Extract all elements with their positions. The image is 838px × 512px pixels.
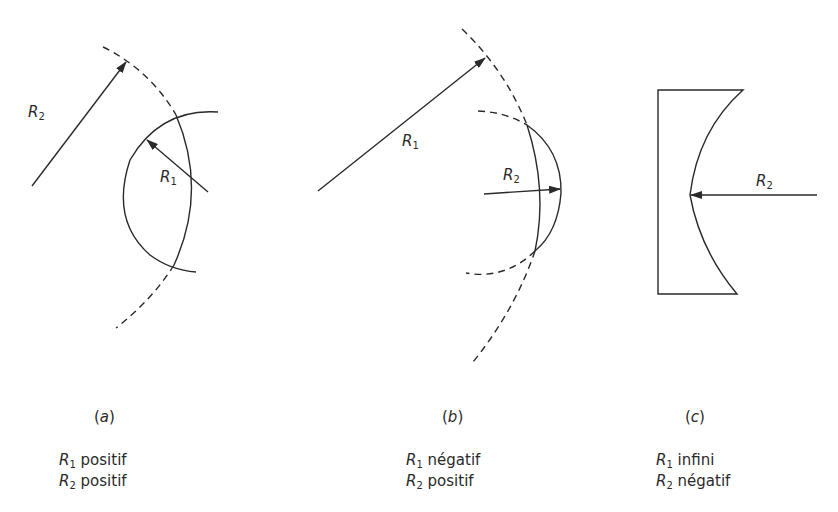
panel-a-r1-label: R1 xyxy=(160,170,177,187)
panel-a-r1-arrow xyxy=(147,140,208,192)
panel-a-outer-arc-dashed-top xyxy=(103,47,176,115)
panel-a-drawing xyxy=(32,47,218,328)
panel-b-outer-arc-solid xyxy=(527,125,540,251)
panel-b-outer-arc-dashed-top xyxy=(462,29,527,125)
panel-a-caption-line-2: R2 positif xyxy=(59,473,127,494)
panel-a-outer-arc-solid xyxy=(174,115,192,265)
panel-b-outer-arc-dashed-bottom xyxy=(473,251,535,362)
panel-b-r2-arrow xyxy=(484,189,560,194)
panel-a-caption: R1 positif R2 positif xyxy=(59,452,127,494)
panel-c-caption: R1 infini R2 négatif xyxy=(656,452,730,494)
panel-a-r2-label: R2 xyxy=(28,105,45,122)
lens-radius-sign-convention-figure: R2 R1 R1 R2 R2 (a) (b) (c) R1 positif R2… xyxy=(0,0,838,512)
panel-b-r1-label: R1 xyxy=(402,134,419,151)
panel-c-caption-line-2: R2 négatif xyxy=(656,473,730,494)
panel-c-drawing xyxy=(658,90,817,294)
panel-b-drawing xyxy=(318,29,561,362)
panel-b-inner-arc-dashed-bottom xyxy=(466,251,535,274)
panel-a-outer-arc-dashed-bottom xyxy=(116,265,174,328)
panel-b-letter: (b) xyxy=(442,410,463,425)
panel-a-inner-arc xyxy=(123,112,218,272)
panel-a-caption-line-1: R1 positif xyxy=(59,452,127,473)
panel-b-r2-label: R2 xyxy=(503,168,520,185)
panel-b-caption: R1 négatif R2 positif xyxy=(406,452,480,494)
panel-c-letter: (c) xyxy=(685,410,705,425)
panel-a-letter: (a) xyxy=(94,410,115,425)
panel-a-r2-arrow xyxy=(32,62,126,186)
panel-b-r1-arrow xyxy=(318,58,485,191)
panel-c-caption-line-1: R1 infini xyxy=(656,452,730,473)
panel-c-lens-outline xyxy=(658,90,743,294)
panel-b-caption-line-1: R1 négatif xyxy=(406,452,480,473)
panel-c-r2-label: R2 xyxy=(756,174,773,191)
panel-b-caption-line-2: R2 positif xyxy=(406,473,480,494)
panel-b-inner-arc-dashed-top xyxy=(478,111,527,125)
figure-drawing xyxy=(0,0,838,512)
